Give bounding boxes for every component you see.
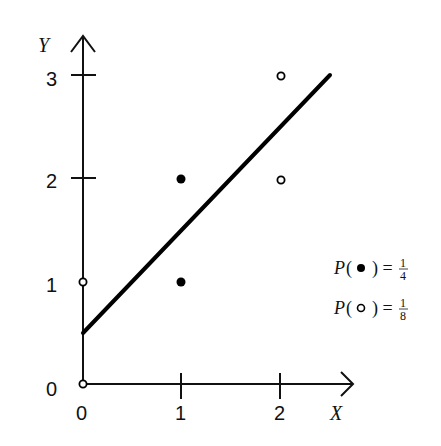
legend-filled-open-paren: ( (346, 258, 352, 279)
point-open-0-0 (79, 380, 86, 387)
y-tick-label-1: 1 (46, 274, 57, 296)
legend-filled-p: P (333, 258, 345, 278)
scatter-diagram: 3 2 1 0 0 1 2 Y X P ( ) = 1 4 P ( ) = 1 … (0, 0, 441, 446)
legend-filled: P ( ) = 1 4 (333, 256, 408, 283)
point-filled-1-2 (177, 175, 186, 184)
y-tick-label-2: 2 (46, 170, 57, 192)
y-tick-label-0: 0 (46, 378, 57, 400)
legend-filled-circle-icon (357, 264, 365, 272)
legend-open-circle-icon (358, 305, 365, 312)
x-tick-label-0: 0 (76, 402, 87, 424)
y-tick-label-3: 3 (46, 68, 57, 90)
legend-open-denominator: 8 (400, 309, 406, 323)
point-open-0-1 (79, 278, 86, 285)
y-axis-label: Y (38, 34, 51, 56)
point-filled-1-1 (177, 278, 186, 287)
point-open-2-3 (277, 72, 284, 79)
legend-open-open-paren: ( (346, 298, 352, 319)
plot-svg: 3 2 1 0 0 1 2 Y X P ( ) = 1 4 P ( ) = 1 … (0, 0, 441, 446)
legend-filled-numerator: 1 (400, 256, 406, 270)
point-open-2-2 (277, 176, 284, 183)
legend-filled-denominator: 4 (400, 269, 406, 283)
x-tick-label-1: 1 (175, 402, 186, 424)
legend-open: P ( ) = 1 8 (333, 296, 408, 323)
legend-open-p: P (333, 298, 345, 318)
legend-open-suffix: ) = (372, 298, 393, 319)
legend-open-numerator: 1 (400, 296, 406, 310)
legend-filled-suffix: ) = (372, 258, 393, 279)
x-tick-label-2: 2 (274, 402, 285, 424)
regression-line (83, 75, 330, 333)
x-axis-label: X (329, 402, 343, 424)
